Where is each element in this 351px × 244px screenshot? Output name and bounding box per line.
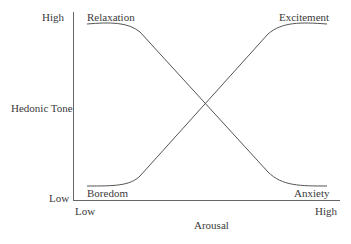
relaxation-label: Relaxation [87, 11, 135, 23]
boredom-excitement-curve [87, 23, 327, 186]
y-axis-low-label: Low [49, 192, 69, 204]
y-axis-title: Hedonic Tone [11, 102, 73, 114]
x-axis-title: Arousal [194, 219, 229, 231]
y-axis-high-label: High [42, 11, 64, 23]
x-axis-high-label: High [315, 205, 337, 217]
anxiety-label: Anxiety [294, 187, 329, 199]
excitement-label: Excitement [279, 11, 329, 23]
boredom-label: Boredom [87, 187, 128, 199]
x-axis-low-label: Low [75, 205, 95, 217]
diagram-canvas [0, 0, 351, 244]
relaxation-anxiety-curve [87, 23, 327, 186]
